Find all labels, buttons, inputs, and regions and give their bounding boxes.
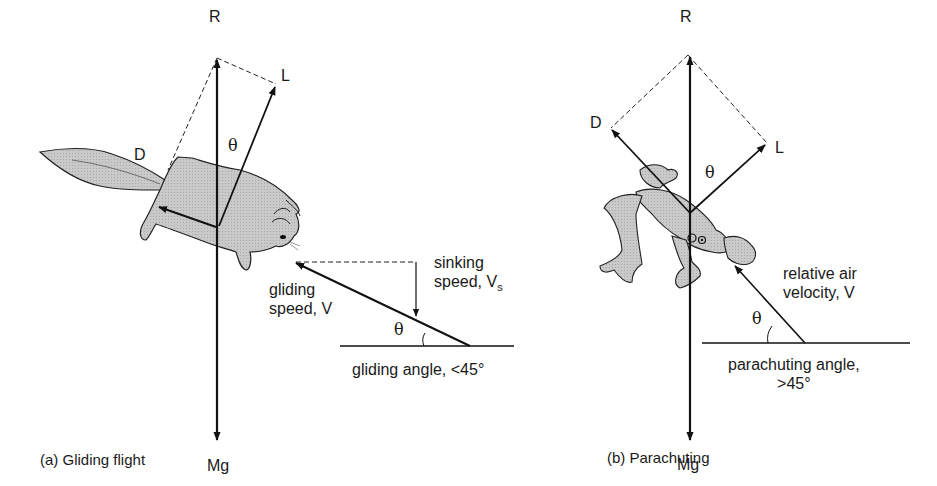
sinking-speed-label: sinking speed, Vs bbox=[434, 253, 503, 293]
flying-squirrel-illustration bbox=[40, 149, 300, 271]
theta-label-a: θ bbox=[228, 136, 238, 155]
theta-label-b: θ bbox=[705, 163, 715, 182]
relative-air-velocity-label: relative air velocity, V bbox=[783, 264, 857, 302]
gliding-frog-illustration bbox=[600, 165, 755, 288]
diagram-canvas bbox=[0, 0, 937, 486]
theta-label-gliding: θ bbox=[394, 320, 404, 339]
lift-label-a: L bbox=[281, 66, 290, 85]
parachuting-angle-label: parachuting angle, >45° bbox=[728, 355, 860, 393]
caption-gliding-flight: (a) Gliding flight bbox=[40, 450, 145, 469]
resultant-force-label-a: R bbox=[209, 7, 221, 26]
theta-label-parachuting: θ bbox=[752, 309, 762, 328]
caption-parachuting: (b) Parachuting bbox=[607, 448, 710, 467]
lift-label-b: L bbox=[775, 138, 784, 157]
drag-label-a: D bbox=[134, 145, 146, 164]
weight-label-a: Mg bbox=[207, 456, 229, 475]
resultant-force-label-b: R bbox=[680, 7, 692, 26]
gliding-speed-label: gliding speed, V bbox=[269, 280, 332, 318]
gliding-angle-label: gliding angle, <45° bbox=[352, 360, 484, 379]
drag-label-b: D bbox=[590, 113, 602, 132]
